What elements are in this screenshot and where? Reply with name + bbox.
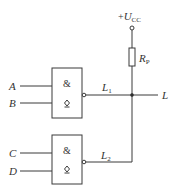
gate-1-body	[52, 68, 82, 118]
input-b-label: B	[9, 97, 16, 109]
gate-2: C D & L2	[8, 135, 132, 184]
supply-label: +UCC	[118, 10, 141, 24]
input-d-label: D	[8, 165, 17, 177]
supply-terminal-icon	[130, 26, 134, 30]
gate-1: A B & L1	[8, 68, 158, 118]
input-c-label: C	[9, 147, 17, 159]
output-l2-label: L2	[100, 149, 111, 163]
wired-and-oc-gate-diagram: +UCC RP A B & L1 L C D	[0, 0, 179, 196]
and-symbol: &	[63, 145, 71, 156]
input-a-label: A	[8, 80, 16, 92]
output-l1-label: L1	[101, 81, 112, 95]
pullup-resistor	[129, 48, 135, 66]
and-symbol: &	[63, 78, 71, 89]
output-l-label: L	[161, 89, 168, 101]
output-bubble-icon	[82, 93, 86, 97]
resistor-label: RP	[138, 52, 150, 66]
output-bubble-icon	[82, 160, 86, 164]
gate-2-body	[52, 135, 82, 184]
